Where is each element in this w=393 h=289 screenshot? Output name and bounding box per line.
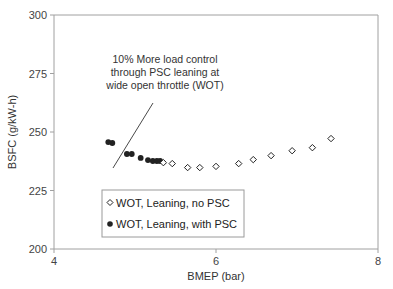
x-tick-6: 6 bbox=[213, 255, 219, 267]
y-tick-200: 200 bbox=[29, 243, 47, 255]
data-point-no-psc bbox=[328, 135, 334, 141]
legend-item-with-psc: WOT, Leaning, with PSC bbox=[116, 218, 237, 230]
series-no-psc bbox=[160, 135, 334, 170]
data-point-no-psc bbox=[213, 163, 219, 169]
y-tick-300: 300 bbox=[29, 9, 47, 21]
y-tick-250: 250 bbox=[29, 126, 47, 138]
data-point-no-psc bbox=[268, 152, 274, 158]
data-point-no-psc bbox=[289, 148, 295, 154]
legend: WOT, Leaning, no PSC WOT, Leaning, with … bbox=[102, 190, 244, 237]
data-point-no-psc bbox=[309, 144, 315, 150]
y-axis-title: BSFC (g/kW-h) bbox=[6, 95, 18, 169]
annotation: 10% More load control through PSC leanin… bbox=[105, 53, 223, 168]
x-tick-4: 4 bbox=[51, 255, 57, 267]
y-tick-225: 225 bbox=[29, 185, 47, 197]
data-point-no-psc bbox=[184, 164, 190, 170]
annotation-line-2: through PSC leaning at bbox=[111, 66, 220, 78]
legend-filled-circle-icon bbox=[107, 221, 113, 227]
y-axis-ticks: 300 275 250 225 200 bbox=[29, 9, 54, 255]
data-point-with-psc bbox=[145, 157, 151, 163]
data-point-with-psc bbox=[138, 155, 144, 161]
x-tick-8: 8 bbox=[375, 255, 381, 267]
y-tick-275: 275 bbox=[29, 68, 47, 80]
x-axis-title: BMEP (bar) bbox=[187, 270, 244, 282]
annotation-line-3: wide open throttle (WOT) bbox=[105, 79, 223, 91]
data-point-with-psc bbox=[109, 140, 115, 146]
data-point-with-psc bbox=[129, 151, 135, 157]
data-point-no-psc bbox=[250, 156, 256, 162]
data-point-no-psc bbox=[169, 160, 175, 166]
data-point-no-psc bbox=[235, 160, 241, 166]
x-axis-ticks: 4 6 8 bbox=[51, 249, 381, 267]
bsfc-vs-bmep-chart: 300 275 250 225 200 4 6 8 BMEP (bar) BSF… bbox=[0, 0, 393, 289]
data-point-no-psc bbox=[197, 164, 203, 170]
series-with-psc bbox=[105, 139, 163, 164]
legend-item-no-psc: WOT, Leaning, no PSC bbox=[116, 197, 230, 209]
annotation-line-1: 10% More load control bbox=[112, 53, 217, 65]
